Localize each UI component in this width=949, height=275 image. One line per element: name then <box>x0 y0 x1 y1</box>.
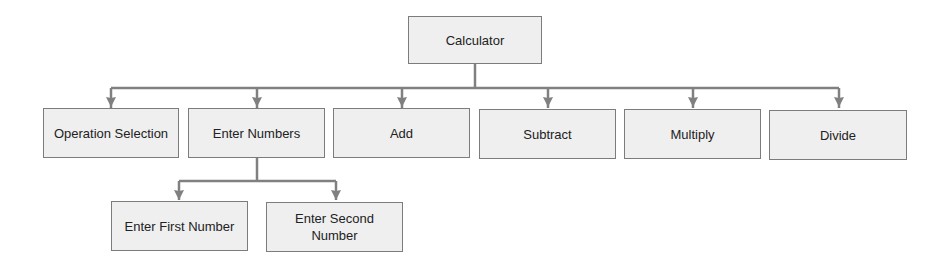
node-label: Calculator <box>446 32 505 49</box>
node-label: Enter Second Number <box>273 210 396 244</box>
node-label: Enter First Number <box>125 218 235 235</box>
node-subtract: Subtract <box>479 109 616 159</box>
node-enter-first-number: Enter First Number <box>111 201 248 251</box>
node-label: Enter Numbers <box>213 125 300 142</box>
node-add: Add <box>333 108 470 158</box>
node-label: Divide <box>820 127 856 144</box>
node-multiply: Multiply <box>624 109 761 159</box>
node-label: Multiply <box>670 126 714 143</box>
node-enter-second-number: Enter Second Number <box>266 202 403 252</box>
node-calculator: Calculator <box>408 16 542 64</box>
node-operation-selection: Operation Selection <box>43 108 179 158</box>
node-label: Add <box>390 125 413 142</box>
node-divide: Divide <box>769 110 907 160</box>
node-label: Operation Selection <box>54 125 168 142</box>
node-enter-numbers: Enter Numbers <box>188 108 325 158</box>
node-label: Subtract <box>523 126 571 143</box>
